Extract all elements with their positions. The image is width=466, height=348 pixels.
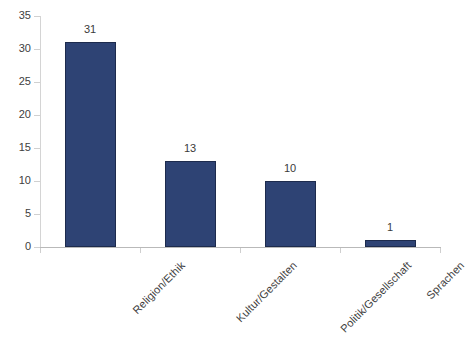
x-category-label: Religion/Ethik	[130, 259, 187, 316]
y-tick-label: 30	[0, 43, 31, 54]
y-tick-label: 35	[0, 10, 31, 21]
bar-value-label: 31	[64, 24, 116, 35]
x-category-label: Kultur/Gestalten	[234, 259, 299, 324]
y-tick-label: 5	[0, 208, 31, 219]
x-tick-mark	[240, 248, 241, 253]
bar-value-label: 13	[164, 143, 216, 154]
y-tick-label: 25	[0, 76, 31, 87]
x-tick-mark	[340, 248, 341, 253]
x-category-label: Sprachen	[424, 259, 466, 301]
x-category-label: Politik/Gesellschaft	[338, 259, 414, 335]
y-tick-label: 10	[0, 175, 31, 186]
bar[interactable]	[265, 181, 316, 247]
bar[interactable]	[165, 161, 216, 247]
y-tick-label: 15	[0, 142, 31, 153]
bar[interactable]	[65, 42, 116, 247]
bar[interactable]	[365, 240, 416, 247]
bar-value-label: 10	[264, 163, 316, 174]
y-tick-label: 20	[0, 109, 31, 120]
bar-value-label: 1	[364, 222, 416, 233]
plot-area	[40, 16, 440, 247]
y-tick-label: 0	[0, 241, 31, 252]
x-tick-mark	[140, 248, 141, 253]
x-tick-mark	[40, 248, 41, 253]
x-tick-mark	[440, 248, 441, 253]
